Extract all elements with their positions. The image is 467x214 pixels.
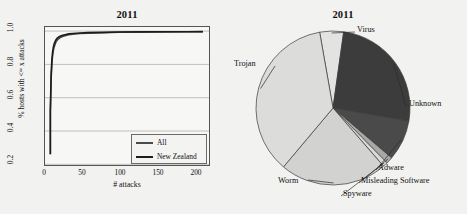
- line-chart-y-axis-label: % hosts with <= x attacks: [17, 19, 26, 139]
- legend-label-new-zealand: New Zealand: [157, 152, 197, 161]
- pie-label-virus: Virus: [357, 25, 375, 34]
- y-tick-label-0_2: 0.2: [6, 150, 15, 170]
- pie-label-adware: Adware: [378, 163, 404, 172]
- pie-label-worm: Worm: [278, 176, 298, 185]
- y-tick-label-1_0: 1.0: [6, 18, 15, 38]
- line-chart-x-axis-label: # attacks: [44, 180, 210, 189]
- y-tick-label-0_6: 0.6: [6, 85, 15, 105]
- pie-chart-panel: 2011 Virus Unknown Adware Misleading Sof…: [233, 0, 467, 214]
- legend-entry-new-zealand: New Zealand: [136, 150, 197, 163]
- pie-label-spyware: Spyware: [343, 189, 372, 198]
- legend-swatch-new-zealand: [136, 156, 153, 158]
- x-tick-label-150: 150: [146, 168, 170, 177]
- legend-entry-all: All: [136, 136, 166, 149]
- y-tick-label-0_4: 0.4: [6, 118, 15, 138]
- pie-slice-unknown: [333, 32, 410, 121]
- y-tick-label-0_8: 0.8: [6, 52, 15, 72]
- x-tick-label-0: 0: [32, 168, 56, 177]
- x-tick-label-200: 200: [184, 168, 208, 177]
- legend-label-all: All: [157, 138, 166, 147]
- pie-label-misleading-software: Misleading Software: [361, 176, 429, 185]
- line-chart-panel: 2011 % hosts with <= x attacks 1.0 0.8 0…: [0, 0, 233, 214]
- figure-canvas: 2011 % hosts with <= x attacks 1.0 0.8 0…: [0, 0, 467, 214]
- legend-swatch-all: [136, 142, 153, 144]
- line-chart-legend: All New Zealand: [131, 134, 207, 164]
- pie-label-trojan: Trojan: [234, 59, 256, 68]
- x-tick-label-50: 50: [70, 168, 94, 177]
- x-tick-label-100: 100: [108, 168, 132, 177]
- line-chart-title: 2011: [44, 9, 210, 20]
- pie-label-unknown: Unknown: [409, 99, 441, 108]
